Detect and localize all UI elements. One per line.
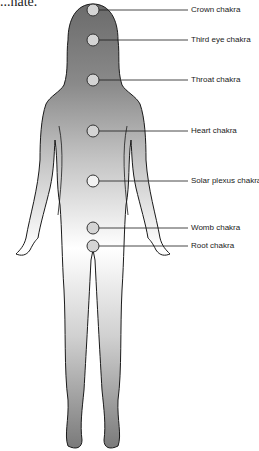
label-throat-chakra: Throat chakra bbox=[191, 75, 240, 85]
label-third-eye-chakra: Third eye chakra bbox=[191, 35, 251, 45]
label-root-chakra: Root chakra bbox=[191, 241, 234, 251]
label-crown-chakra: Crown chakra bbox=[191, 5, 240, 15]
label-womb-chakra: Womb chakra bbox=[191, 223, 240, 233]
label-heart-chakra: Heart chakra bbox=[191, 126, 237, 136]
label-solar-plexus-chakra: Solar plexus chakra bbox=[191, 176, 259, 186]
